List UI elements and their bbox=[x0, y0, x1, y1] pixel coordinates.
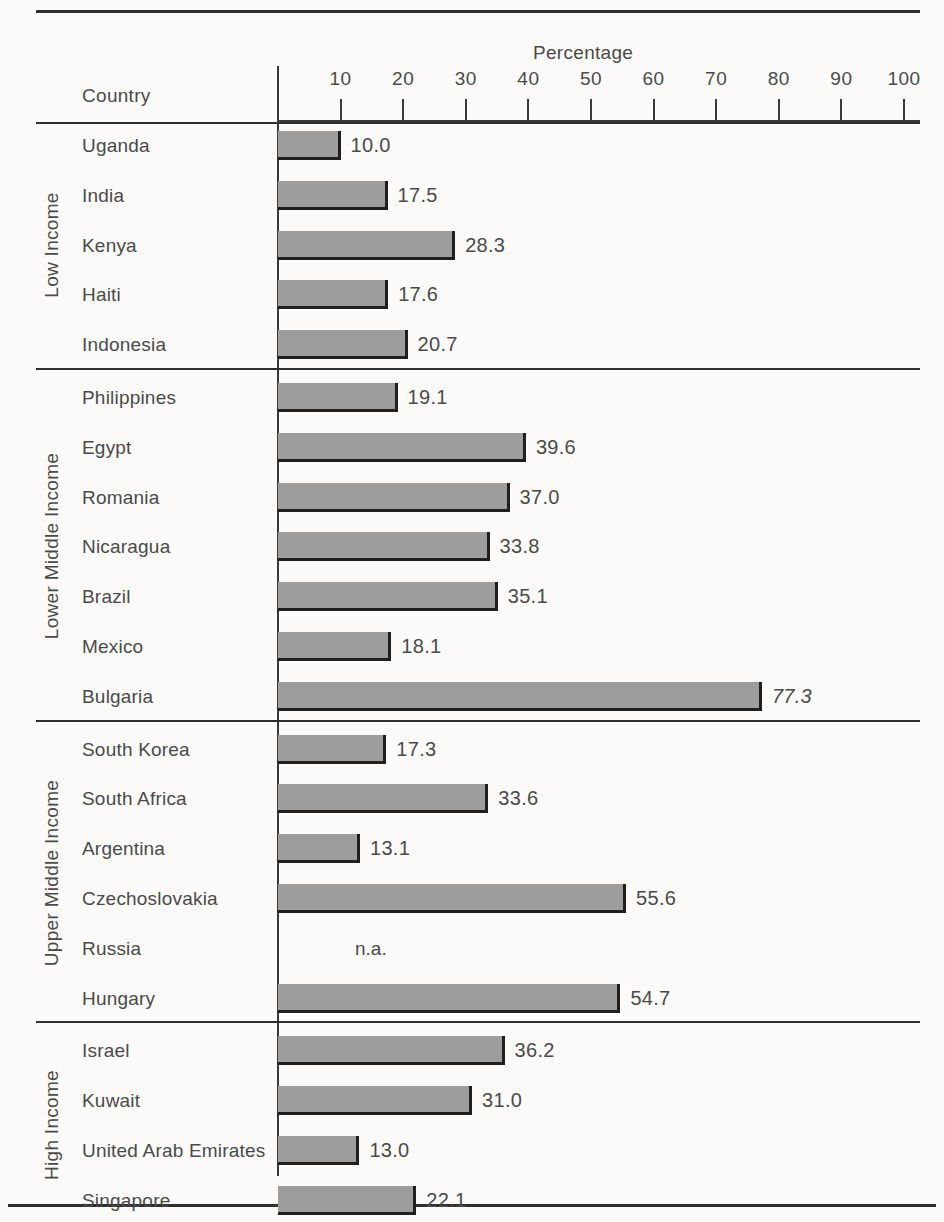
chart-row[interactable]: Bulgaria77.3 bbox=[0, 682, 944, 732]
data-bar[interactable] bbox=[278, 1136, 359, 1165]
row-country-label: Hungary bbox=[82, 988, 155, 1010]
chart-row[interactable]: United Arab Emirates13.0 bbox=[0, 1136, 944, 1186]
chart-row[interactable]: India17.5 bbox=[0, 181, 944, 231]
chart-row[interactable]: Uganda10.0 bbox=[0, 131, 944, 181]
data-bar[interactable] bbox=[278, 984, 620, 1013]
data-bar[interactable] bbox=[278, 632, 391, 661]
x-axis-tick bbox=[527, 99, 529, 121]
row-country-label: Bulgaria bbox=[82, 686, 153, 708]
data-bar[interactable] bbox=[278, 483, 510, 512]
bar-value-label: 55.6 bbox=[636, 887, 676, 910]
row-country-label: Philippines bbox=[82, 387, 176, 409]
bar-value-label: 28.3 bbox=[465, 234, 505, 257]
bar-value-label: 20.7 bbox=[418, 333, 458, 356]
data-bar[interactable] bbox=[278, 682, 762, 711]
group-separator-rule bbox=[36, 720, 920, 722]
row-country-label: Uganda bbox=[82, 135, 150, 157]
data-bar[interactable] bbox=[278, 582, 498, 611]
chart-row[interactable]: Czechoslovakia55.6 bbox=[0, 884, 944, 934]
chart-row[interactable]: Israel36.2 bbox=[0, 1036, 944, 1086]
x-axis-title: Percentage bbox=[533, 42, 633, 64]
x-axis-tick-label: 90 bbox=[811, 68, 871, 90]
chart-row[interactable]: South Korea17.3 bbox=[0, 735, 944, 785]
chart-row[interactable]: Nicaragua33.8 bbox=[0, 532, 944, 582]
x-axis-tick bbox=[590, 99, 592, 121]
x-axis-tick bbox=[840, 99, 842, 121]
data-bar[interactable] bbox=[278, 280, 388, 309]
chart-page: Country Percentage 102030405060708090100… bbox=[0, 0, 944, 1222]
row-country-label: South Korea bbox=[82, 739, 190, 761]
data-bar[interactable] bbox=[278, 131, 341, 160]
row-country-label: South Africa bbox=[82, 788, 187, 810]
row-country-label: Nicaragua bbox=[82, 536, 170, 558]
bar-value-label: 17.6 bbox=[398, 283, 438, 306]
bar-value-label: 36.2 bbox=[515, 1039, 555, 1062]
data-bar[interactable] bbox=[278, 784, 488, 813]
x-axis-tick bbox=[340, 99, 342, 121]
chart-row[interactable]: Singapore22.1 bbox=[0, 1186, 944, 1222]
chart-row[interactable]: Mexico18.1 bbox=[0, 632, 944, 682]
data-bar[interactable] bbox=[278, 532, 490, 561]
chart-row[interactable]: Haiti17.6 bbox=[0, 280, 944, 330]
group-label-text: Low Income bbox=[41, 120, 63, 369]
row-country-label: Kuwait bbox=[82, 1090, 140, 1112]
x-axis-tick-label: 60 bbox=[624, 68, 684, 90]
data-bar[interactable] bbox=[278, 1086, 472, 1115]
group-separator-rule bbox=[36, 368, 920, 370]
data-bar[interactable] bbox=[278, 433, 526, 462]
bar-value-label: 22.1 bbox=[426, 1189, 466, 1212]
bar-value-label: 54.7 bbox=[630, 987, 670, 1010]
data-bar[interactable] bbox=[278, 1186, 416, 1215]
x-axis-tick bbox=[778, 99, 780, 121]
row-country-label: Brazil bbox=[82, 586, 131, 608]
chart-row[interactable]: Hungary54.7 bbox=[0, 984, 944, 1034]
chart-row[interactable]: Romania37.0 bbox=[0, 483, 944, 533]
row-country-label: Haiti bbox=[82, 284, 121, 306]
chart-row[interactable]: Kuwait31.0 bbox=[0, 1086, 944, 1136]
bar-value-label: 35.1 bbox=[508, 585, 548, 608]
chart-row[interactable]: Brazil35.1 bbox=[0, 582, 944, 632]
frame-top-rule bbox=[36, 10, 920, 13]
row-country-label: United Arab Emirates bbox=[82, 1140, 266, 1162]
chart-row[interactable]: Russian.a. bbox=[0, 934, 944, 984]
row-country-label: Argentina bbox=[82, 838, 165, 860]
x-axis-tick bbox=[715, 99, 717, 121]
data-bar[interactable] bbox=[278, 1036, 505, 1065]
chart-row[interactable]: Kenya28.3 bbox=[0, 231, 944, 281]
x-axis-tick bbox=[465, 99, 467, 121]
row-country-label: Egypt bbox=[82, 437, 132, 459]
row-country-label: Czechoslovakia bbox=[82, 888, 218, 910]
bar-value-label: 13.0 bbox=[369, 1139, 409, 1162]
chart-row[interactable]: Indonesia20.7 bbox=[0, 330, 944, 380]
bar-value-label: 19.1 bbox=[408, 386, 448, 409]
header-rule bbox=[36, 122, 920, 124]
group-label-text: Lower Middle Income bbox=[41, 372, 63, 721]
data-bar[interactable] bbox=[278, 330, 408, 359]
chart-row[interactable]: Philippines19.1 bbox=[0, 383, 944, 433]
bar-value-label: 33.6 bbox=[498, 787, 538, 810]
x-axis-tick-label: 80 bbox=[749, 68, 809, 90]
bar-value-label: 18.1 bbox=[401, 635, 441, 658]
data-bar[interactable] bbox=[278, 181, 388, 210]
data-bar[interactable] bbox=[278, 231, 455, 260]
data-bar[interactable] bbox=[278, 735, 386, 764]
bar-value-label: 17.3 bbox=[396, 738, 436, 761]
chart-row[interactable]: Argentina13.1 bbox=[0, 834, 944, 884]
data-bar[interactable] bbox=[278, 834, 360, 863]
x-axis-tick bbox=[402, 99, 404, 121]
row-country-label: Romania bbox=[82, 487, 159, 509]
country-column-header: Country bbox=[82, 85, 151, 107]
group-label-text: Upper Middle Income bbox=[41, 724, 63, 1023]
x-axis-tick-label: 50 bbox=[561, 68, 621, 90]
row-country-label: Kenya bbox=[82, 235, 137, 257]
data-bar[interactable] bbox=[278, 383, 398, 412]
chart-row[interactable]: Egypt39.6 bbox=[0, 433, 944, 483]
x-axis-tick-label: 20 bbox=[373, 68, 433, 90]
x-axis-line bbox=[277, 120, 920, 122]
chart-row[interactable]: South Africa33.6 bbox=[0, 784, 944, 834]
row-country-label: Indonesia bbox=[82, 334, 166, 356]
bar-value-label: 39.6 bbox=[536, 436, 576, 459]
bar-value-label: 17.5 bbox=[398, 184, 438, 207]
bar-value-label: 31.0 bbox=[482, 1089, 522, 1112]
data-bar[interactable] bbox=[278, 884, 626, 913]
